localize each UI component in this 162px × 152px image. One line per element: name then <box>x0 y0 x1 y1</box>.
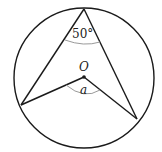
circle-diagram: 50° O a <box>0 0 162 152</box>
center-label: O <box>79 60 89 74</box>
central-angle-label: a <box>80 83 87 97</box>
radius-right <box>84 77 137 119</box>
inscribed-angle-label: 50° <box>72 27 93 41</box>
chord-right <box>84 9 137 119</box>
center-point <box>82 75 86 79</box>
